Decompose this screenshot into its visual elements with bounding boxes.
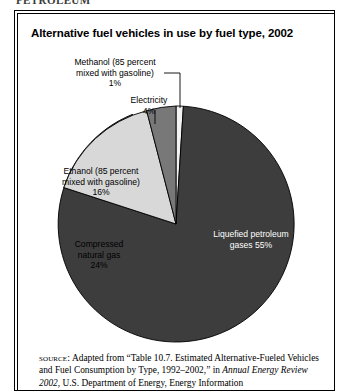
pie-label-lpg: Liquefied petroleum gases 55% (195, 229, 307, 250)
pie-label-methanol-line2: mixed with gasoline) (51, 68, 179, 79)
source-note: source: Adapted from “Table 10.7. Estima… (39, 352, 329, 389)
pie-label-lpg-line1: Liquefied petroleum (195, 229, 307, 240)
pie-label-methanol-line1: Methanol (85 percent (51, 57, 179, 68)
pie-label-cng-value: 24% (49, 260, 149, 271)
pie-label-ethanol-line2: mixed with gasoline) (45, 177, 157, 188)
pie-label-cng: Compressed natural gas 24% (49, 239, 149, 271)
pie-label-methanol: Methanol (85 percent mixed with gasoline… (51, 57, 179, 89)
pie-label-electricity: Electricity 4% (111, 95, 187, 116)
source-text-part2: , U.S. Department of Energy, Energy Info… (58, 378, 243, 388)
figure-inner: Alternative fuel vehicles in use by fuel… (15, 11, 334, 390)
clipped-page-header: PETROLEUM (16, 0, 166, 6)
pie-label-ethanol-line1: Ethanol (85 percent (45, 166, 157, 177)
source-kicker: source: (39, 352, 70, 363)
pie-label-ethanol: Ethanol (85 percent mixed with gasoline)… (45, 166, 157, 198)
pie-label-electricity-line1: Electricity (111, 95, 187, 106)
pie-label-methanol-value: 1% (51, 78, 179, 89)
pie-chart: Methanol (85 percent mixed with gasoline… (15, 11, 334, 351)
pie-label-cng-line1: Compressed (49, 239, 149, 250)
pie-label-ethanol-value: 16% (45, 187, 157, 198)
pie-label-lpg-line2: gases 55% (195, 240, 307, 251)
pie-label-electricity-value: 4% (111, 106, 187, 117)
pie-label-cng-line2: natural gas (49, 250, 149, 261)
figure-frame: Alternative fuel vehicles in use by fuel… (14, 10, 335, 391)
